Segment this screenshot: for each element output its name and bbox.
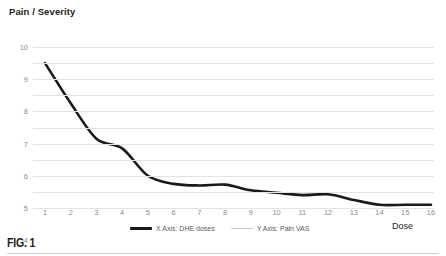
- data-line: [45, 63, 431, 205]
- x-axis-tick-label: 13: [350, 208, 358, 217]
- legend-label: Y Axis: Pain VAS: [257, 225, 310, 232]
- x-axis-tick-label: 11: [298, 208, 306, 217]
- x-axis-ticks: 12345678910111213141516: [33, 208, 434, 224]
- gridline: 9: [33, 63, 434, 64]
- legend-item[interactable]: Y Axis: Pain VAS: [231, 225, 310, 232]
- x-axis-tick-label: 14: [375, 208, 383, 217]
- x-axis-tick-label: 8: [223, 208, 227, 217]
- y-axis-tick-label: 6: [24, 171, 28, 180]
- y-axis-tick-label: 8: [24, 107, 28, 116]
- figure-page: Pain / Severity 012345678910 12345678910…: [0, 0, 446, 256]
- gridline: 5: [33, 128, 434, 129]
- x-axis-tick-label: 10: [272, 208, 280, 217]
- x-axis-tick-label: 3: [94, 208, 98, 217]
- x-axis-tick-label: 6: [172, 208, 176, 217]
- legend-item[interactable]: X Axis: DHE doses: [130, 225, 215, 232]
- gridline: 2: [33, 176, 434, 177]
- x-axis-tick-label: 7: [197, 208, 201, 217]
- gridline: 10: [33, 47, 434, 48]
- y-axis-tick-label: 10: [20, 43, 28, 52]
- y-axis-tick-label: 7: [24, 139, 28, 148]
- x-axis-tick-label: 12: [324, 208, 332, 217]
- chart-legend: X Axis: DHE dosesY Axis: Pain VAS: [130, 225, 309, 232]
- x-axis-tick-label: 1: [43, 208, 47, 217]
- chart-title: Pain / Severity: [9, 6, 75, 17]
- y-axis-tick-label: 5: [24, 204, 28, 213]
- x-axis-tick-label: 9: [249, 208, 253, 217]
- chart-plot-wrapper: 012345678910 12345678910111213141516: [0, 40, 446, 215]
- gridline: 3: [33, 160, 434, 161]
- plot-area: 012345678910: [33, 47, 434, 208]
- x-axis-title: Dose: [392, 221, 413, 231]
- gridline: 8: [33, 79, 434, 80]
- x-axis-tick-label: 16: [427, 208, 435, 217]
- gridline: 4: [33, 144, 434, 145]
- x-axis-tick-label: 4: [120, 208, 124, 217]
- figure-caption: FIG. 1: [7, 236, 35, 250]
- x-axis-tick-label: 15: [401, 208, 409, 217]
- caption-divider: [7, 253, 439, 254]
- x-axis-tick-label: 5: [146, 208, 150, 217]
- x-axis-tick-label: 2: [69, 208, 73, 217]
- y-axis-tick-label: 9: [24, 75, 28, 84]
- legend-swatch: [130, 227, 152, 230]
- legend-swatch: [231, 228, 253, 229]
- gridline: 1: [33, 192, 434, 193]
- legend-label: X Axis: DHE doses: [156, 225, 215, 232]
- gridline: 7: [33, 95, 434, 96]
- gridline: 6: [33, 111, 434, 112]
